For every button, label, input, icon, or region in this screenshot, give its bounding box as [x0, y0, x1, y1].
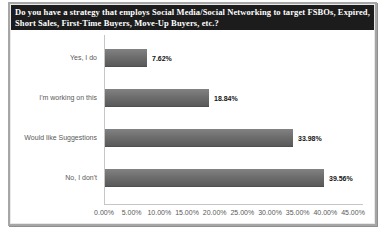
value-label: 39.56%	[329, 174, 353, 183]
plot-area: Yes, I do7.62%I'm working on this18.84%W…	[11, 31, 374, 223]
bar	[105, 49, 147, 67]
chart-frame: Do you have a strategy that employs Soci…	[8, 2, 377, 226]
chart-title: Do you have a strategy that employs Soci…	[11, 5, 374, 30]
bar	[105, 169, 324, 187]
value-label: 7.62%	[152, 54, 172, 63]
category-label: No, I don't	[11, 173, 97, 182]
value-label: 18.84%	[214, 94, 238, 103]
category-label: Would like Suggestions	[11, 133, 97, 142]
value-label: 33.98%	[298, 134, 322, 143]
x-axis-line	[104, 204, 363, 205]
chart-image: Do you have a strategy that employs Soci…	[0, 0, 384, 237]
x-tick-label: 45.00%	[336, 208, 370, 217]
bar	[105, 89, 209, 107]
category-label: Yes, I do	[11, 53, 97, 62]
bar	[105, 129, 293, 147]
category-label: I'm working on this	[11, 93, 97, 102]
